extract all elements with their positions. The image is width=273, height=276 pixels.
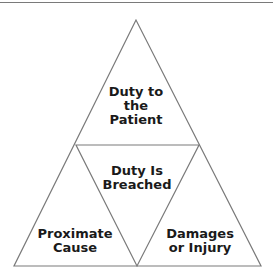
- label-line: Damages: [150, 227, 250, 241]
- section-top-label: Duty to the Patient: [86, 85, 186, 127]
- label-line: Patient: [86, 113, 186, 127]
- section-bottom-left-label: Proximate Cause: [25, 227, 125, 255]
- label-line: Cause: [25, 241, 125, 255]
- label-line: the: [86, 99, 186, 113]
- label-line: Proximate: [25, 227, 125, 241]
- label-line: or Injury: [150, 241, 250, 255]
- label-line: Duty Is: [87, 164, 187, 178]
- label-line: Duty to: [86, 85, 186, 99]
- section-bottom-right-label: Damages or Injury: [150, 227, 250, 255]
- section-center-label: Duty Is Breached: [87, 164, 187, 192]
- label-line: Breached: [87, 178, 187, 192]
